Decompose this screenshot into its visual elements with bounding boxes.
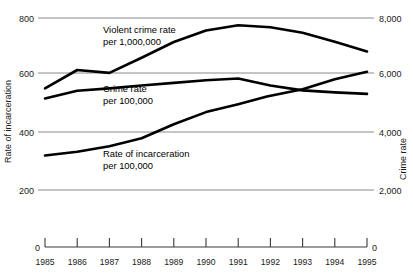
left-axis-label-0: 0 <box>35 243 40 253</box>
x-label-1994: 1994 <box>325 257 344 267</box>
line-chart: 800 600 400 200 0 8,000 6,000 4,000 2,00… <box>0 0 413 273</box>
crime-rate-annotation-line2: per 100,000 <box>103 95 153 106</box>
left-axis-label-800: 800 <box>19 14 34 24</box>
right-axis-label-6000: 6,000 <box>379 69 402 79</box>
x-label-1987: 1987 <box>100 257 119 267</box>
violent-crime-annotation: Violent crime rate per 1,000,000 <box>103 24 176 47</box>
right-axis-title: Crime rate <box>398 138 408 180</box>
incarceration-annotation: Rate of incarceration per 100,000 <box>103 148 190 171</box>
left-axis-label-400: 400 <box>19 128 34 138</box>
x-axis-year-labels: 1985 1986 1987 1988 1989 1990 1991 1992 … <box>35 257 376 267</box>
x-label-1995: 1995 <box>357 257 376 267</box>
left-axis-ticks <box>38 18 45 190</box>
right-axis-ticks <box>367 18 374 190</box>
incarceration-annotation-line1: Rate of incarceration <box>103 148 190 159</box>
x-label-1988: 1988 <box>132 257 151 267</box>
violent-crime-annotation-line2: per 1,000,000 <box>103 36 161 47</box>
left-axis-label-200: 200 <box>19 186 34 196</box>
x-label-1989: 1989 <box>164 257 183 267</box>
x-label-1992: 1992 <box>261 257 280 267</box>
chart-svg: 800 600 400 200 0 8,000 6,000 4,000 2,00… <box>0 0 413 273</box>
x-label-1991: 1991 <box>229 257 248 267</box>
gridlines <box>45 18 367 190</box>
x-label-1985: 1985 <box>35 257 54 267</box>
incarceration-annotation-line2: per 100,000 <box>103 160 153 171</box>
series-rate-of-incarceration <box>45 72 367 156</box>
series-crime-rate <box>45 79 367 99</box>
crime-rate-annotation-line1: Crime rate <box>103 83 147 94</box>
right-axis-label-0: 0 <box>372 243 377 253</box>
x-label-1993: 1993 <box>293 257 312 267</box>
right-axis-label-4000: 4,000 <box>379 128 402 138</box>
crime-rate-annotation: Crime rate per 100,000 <box>103 83 153 106</box>
x-label-1986: 1986 <box>68 257 87 267</box>
right-axis-label-8000: 8,000 <box>379 14 402 24</box>
x-axis <box>45 238 367 247</box>
left-axis-label-600: 600 <box>19 69 34 79</box>
series-violent-crime-rate <box>45 25 367 88</box>
x-label-1990: 1990 <box>196 257 215 267</box>
violent-crime-annotation-line1: Violent crime rate <box>103 24 176 35</box>
left-axis-title: Rate of incarceration <box>3 80 13 163</box>
right-axis-label-2000: 2,000 <box>379 186 402 196</box>
